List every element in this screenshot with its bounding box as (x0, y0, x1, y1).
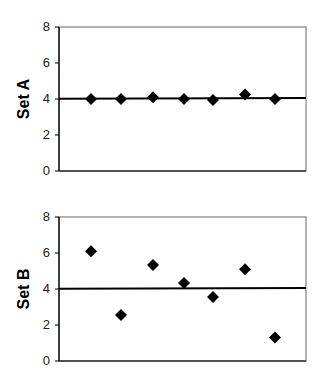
data-point-diamond (85, 245, 97, 257)
data-point-diamond (115, 309, 127, 321)
data-point-diamond (207, 291, 219, 303)
y-tick-label: 0 (30, 164, 50, 178)
y-tick-label: 0 (30, 354, 50, 368)
data-point-diamond (178, 93, 190, 105)
data-point-diamond (85, 93, 97, 105)
data-point-diamond (147, 91, 159, 103)
y-tick-label: 8 (30, 20, 50, 34)
data-point-diamond (207, 94, 219, 106)
mean-line (59, 288, 306, 289)
y-tick-label: 6 (30, 246, 50, 260)
y-tick-label: 4 (30, 92, 50, 106)
y-tick-label: 2 (30, 128, 50, 142)
data-point-diamond (178, 277, 190, 289)
chart-set-a: Set A 8 6 4 2 0 (0, 0, 328, 190)
y-tick-label: 4 (30, 282, 50, 296)
y-tick-label: 8 (30, 210, 50, 224)
data-point-diamond (269, 332, 281, 344)
data-point-diamond (115, 93, 127, 105)
y-tick-label: 6 (30, 56, 50, 70)
y-tick-label: 2 (30, 318, 50, 332)
data-point-diamond (239, 263, 251, 275)
chart-set-b: Set B 8 6 4 2 0 (0, 190, 328, 380)
data-point-diamond (147, 259, 159, 271)
data-point-diamond (269, 93, 281, 105)
